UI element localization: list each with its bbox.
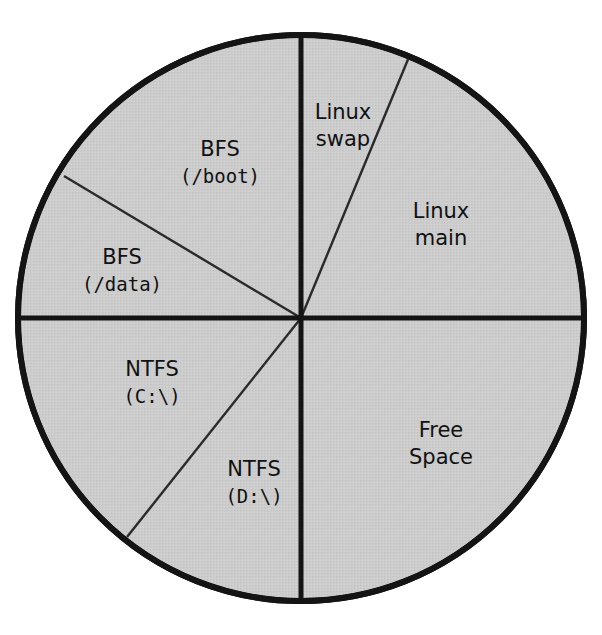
slice-label-ntfs-c-line2: (C:\) bbox=[123, 385, 180, 407]
slice-label-linux-swap-line2: swap bbox=[316, 127, 370, 151]
slice-label-bfs-data-line1: BFS bbox=[102, 245, 141, 269]
slice-label-bfs-boot-line1: BFS bbox=[200, 137, 239, 161]
slice-label-linux-main-line2: main bbox=[415, 226, 467, 250]
slice-label-linux-swap-line1: Linux bbox=[315, 100, 372, 124]
partition-pie-chart: Linux swap Linux main Free Space NTFS (D… bbox=[0, 0, 602, 635]
slice-label-ntfs-c-line1: NTFS bbox=[125, 357, 179, 381]
slice-label-free-space-line2: Space bbox=[409, 445, 473, 469]
slice-label-bfs-data-line2: (/data) bbox=[82, 273, 162, 295]
slice-label-free-space-line1: Free bbox=[419, 418, 464, 442]
slice-label-linux-main-line1: Linux bbox=[413, 199, 470, 223]
slice-label-ntfs-d-line2: (D:\) bbox=[225, 485, 282, 507]
slice-label-bfs-boot-line2: (/boot) bbox=[180, 165, 260, 187]
slice-label-ntfs-d-line1: NTFS bbox=[227, 457, 281, 481]
partition-diagram: Linux swap Linux main Free Space NTFS (D… bbox=[0, 0, 602, 635]
